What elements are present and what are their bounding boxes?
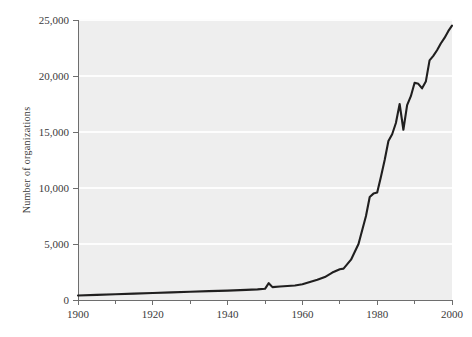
x-tick-label: 1980 (366, 308, 389, 320)
x-axis-minor-ticks (115, 300, 414, 304)
chart-figure: 05,00010,00015,00020,00025,000 190019201… (0, 0, 472, 337)
y-tick-label: 0 (64, 294, 70, 306)
x-tick-label: 1900 (67, 308, 90, 320)
y-axis-title: Number of organizations (21, 107, 32, 214)
y-axis-ticks: 05,00010,00015,00020,00025,000 (39, 14, 78, 306)
y-tick-label: 10,000 (39, 182, 70, 194)
x-tick-label: 1920 (142, 308, 165, 320)
y-tick-label: 15,000 (39, 126, 70, 138)
y-tick-label: 20,000 (39, 70, 70, 82)
y-tick-label: 25,000 (39, 14, 70, 26)
plot-background (78, 20, 452, 300)
line-chart: 05,00010,00015,00020,00025,000 190019201… (0, 0, 472, 337)
x-tick-label: 1940 (217, 308, 240, 320)
x-tick-label: 1960 (291, 308, 314, 320)
x-tick-label: 2000 (441, 308, 464, 320)
y-tick-label: 5,000 (44, 238, 69, 250)
